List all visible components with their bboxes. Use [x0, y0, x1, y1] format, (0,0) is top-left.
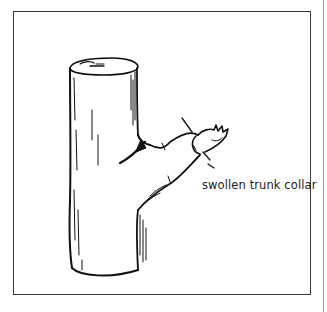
tree-trunk-illustration [0, 0, 327, 312]
branch-stub [138, 118, 228, 210]
trunk-left-edge [70, 68, 98, 270]
figure-page: swollen trunk collar [0, 0, 327, 312]
collar-annotation: swollen trunk collar [202, 178, 317, 192]
trunk-top-cut [70, 58, 138, 75]
trunk-right-edge [120, 68, 150, 270]
figure-caption-partial [60, 302, 267, 312]
